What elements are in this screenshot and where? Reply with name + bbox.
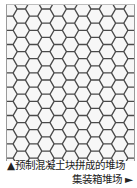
hexagon-pavement-image xyxy=(6,4,135,161)
caption-container-yard: 集装箱堆场 ► xyxy=(72,173,133,186)
caption-precast-concrete-yard: ▲预制混凝土块拼成的堆场 xyxy=(7,159,137,172)
hexagon-grid-graphic xyxy=(7,5,134,161)
